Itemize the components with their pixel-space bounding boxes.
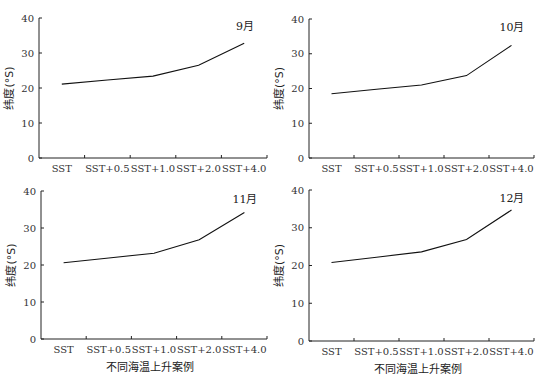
x-category-label: SST+4.0 — [489, 163, 533, 174]
x-axis-title: 不同海温上升案例 — [374, 362, 462, 376]
y-tick-label: 10 — [291, 298, 304, 309]
y-tick-label: 40 — [23, 186, 36, 197]
axis-lines — [309, 19, 534, 158]
panel-month-label: 12月 — [500, 192, 525, 205]
x-category-label: SST+0.5 — [354, 346, 398, 357]
y-tick-label: 10 — [21, 118, 34, 129]
axis-lines — [39, 18, 267, 158]
y-axis-title: 纬度(°S) — [4, 243, 18, 286]
y-tick-label: 30 — [291, 48, 304, 59]
panel-month-label: 10月 — [500, 21, 525, 34]
x-category-label: SST+2.0 — [176, 163, 220, 174]
y-tick-label: 20 — [21, 83, 34, 94]
y-tick-label: 30 — [23, 223, 36, 234]
x-category-label: SST+1.0 — [399, 346, 443, 357]
axis-lines — [41, 191, 267, 339]
x-category-label: SST — [321, 346, 342, 357]
y-tick-label: 20 — [291, 260, 304, 271]
y-axis-title: 纬度(°S) — [2, 66, 16, 109]
x-category-label: SST+4.0 — [489, 346, 533, 357]
chart-panel-october: 010203040SSTSST+0.5SST+1.0SST+2.0SST+4.0… — [272, 14, 534, 175]
x-category-label: SST — [53, 344, 74, 355]
x-category-label: SST+2.0 — [444, 346, 488, 357]
latitude-line — [62, 43, 244, 84]
panel-month-label: 9月 — [236, 20, 254, 33]
chart-panel-september: 010203040SSTSST+0.5SST+1.0SST+2.0SST+4.0… — [2, 13, 267, 175]
panel-month-label: 11月 — [233, 193, 258, 206]
x-category-label: SST+0.5 — [87, 344, 131, 355]
y-axis-title: 纬度(°S) — [272, 244, 286, 287]
y-tick-label: 30 — [21, 48, 34, 59]
x-category-label: SST+4.0 — [222, 163, 266, 174]
chart-panel-november: 010203040SSTSST+0.5SST+1.0SST+2.0SST+4.0… — [4, 186, 267, 375]
latitude-line — [332, 210, 512, 263]
y-tick-label: 10 — [23, 297, 36, 308]
x-category-label: SST — [321, 163, 342, 174]
y-axis-title: 纬度(°S) — [272, 67, 286, 110]
x-category-label: SST+1.0 — [399, 163, 443, 174]
y-tick-label: 40 — [291, 185, 304, 196]
y-tick-label: 0 — [30, 334, 36, 345]
x-category-label: SST+1.0 — [131, 163, 175, 174]
x-category-label: SST+2.0 — [444, 163, 488, 174]
x-category-label: SST+0.5 — [354, 163, 398, 174]
y-tick-label: 10 — [291, 118, 304, 129]
x-category-label: SST+0.5 — [85, 163, 129, 174]
y-tick-label: 0 — [28, 153, 34, 164]
y-tick-label: 20 — [291, 83, 304, 94]
y-tick-label: 0 — [298, 336, 304, 347]
chart-panel-december: 010203040SSTSST+0.5SST+1.0SST+2.0SST+4.0… — [272, 185, 534, 377]
x-category-label: SST+1.0 — [132, 344, 176, 355]
y-tick-label: 0 — [298, 153, 304, 164]
y-tick-label: 20 — [23, 260, 36, 271]
x-category-label: SST — [52, 163, 73, 174]
y-tick-label: 40 — [291, 14, 304, 25]
latitude-line — [332, 45, 512, 93]
figure: 010203040SSTSST+0.5SST+1.0SST+2.0SST+4.0… — [0, 0, 544, 383]
axis-lines — [309, 190, 534, 341]
y-tick-label: 30 — [291, 222, 304, 233]
y-tick-label: 40 — [21, 13, 34, 24]
x-axis-title: 不同海温上升案例 — [106, 360, 194, 374]
latitude-line — [64, 213, 245, 263]
x-category-label: SST+2.0 — [177, 344, 221, 355]
x-category-label: SST+4.0 — [222, 344, 266, 355]
